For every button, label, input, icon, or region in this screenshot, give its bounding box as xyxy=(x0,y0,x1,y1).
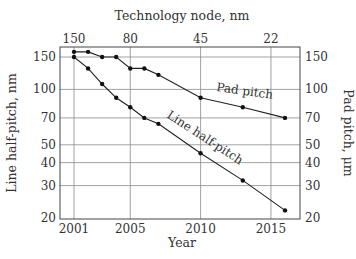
right-axis-title: Pad pitch, μm xyxy=(341,89,356,176)
top-axis-title: Technology node, nm xyxy=(115,8,250,23)
data-point xyxy=(241,178,245,182)
y-left-tick-label: 70 xyxy=(41,111,56,125)
y-left-tick-label: 30 xyxy=(41,179,56,193)
line-chart: 2001200520102015202030304040505070701001… xyxy=(0,0,356,259)
y-left-tick-label: 40 xyxy=(41,156,56,170)
y-left-tick-label: 150 xyxy=(33,50,56,64)
data-point xyxy=(86,50,90,54)
series-line-line-half-pitch xyxy=(74,57,285,210)
y-right-tick-label: 150 xyxy=(305,50,328,64)
y-left-tick-label: 50 xyxy=(41,138,56,152)
data-point xyxy=(156,122,160,126)
data-point xyxy=(128,105,132,109)
y-right-tick-label: 40 xyxy=(305,156,320,170)
top-tick-label: 45 xyxy=(193,32,208,46)
data-point xyxy=(283,208,287,212)
data-point xyxy=(86,66,90,70)
data-point xyxy=(142,116,146,120)
y-right-tick-label: 50 xyxy=(305,138,320,152)
y-right-tick-label: 30 xyxy=(305,179,320,193)
x-tick-label: 2001 xyxy=(59,222,90,236)
data-series xyxy=(72,50,287,213)
pad-pitch-annotation: Pad pitch xyxy=(216,80,275,102)
top-tick-label: 150 xyxy=(63,32,86,46)
data-point xyxy=(241,105,245,109)
top-tick-label: 80 xyxy=(123,32,138,46)
x-axis-title: Year xyxy=(167,235,196,250)
x-tick-label: 2015 xyxy=(256,222,287,236)
y-right-tick-label: 20 xyxy=(305,211,320,225)
data-point xyxy=(156,73,160,77)
data-point xyxy=(114,96,118,100)
data-point xyxy=(72,55,76,59)
y-right-tick-label: 70 xyxy=(305,111,320,125)
data-point xyxy=(198,151,202,155)
data-point xyxy=(72,50,76,54)
data-point xyxy=(128,66,132,70)
data-point xyxy=(198,96,202,100)
y-left-tick-label: 100 xyxy=(33,82,56,96)
x-tick-label: 2005 xyxy=(115,222,146,236)
data-point xyxy=(283,116,287,120)
axis-ticks: 2001200520102015202030304040505070701001… xyxy=(33,32,328,236)
grid-lines xyxy=(60,47,300,219)
data-point xyxy=(142,66,146,70)
left-axis-title: Line half-pitch, nm xyxy=(4,73,19,193)
x-tick-label: 2010 xyxy=(185,222,216,236)
data-point xyxy=(114,55,118,59)
data-point xyxy=(100,55,104,59)
plot-frame xyxy=(60,47,300,219)
y-right-tick-label: 100 xyxy=(305,82,328,96)
top-tick-label: 22 xyxy=(263,32,278,46)
y-left-tick-label: 20 xyxy=(41,211,56,225)
line-half-pitch-annotation: Line half-pitch xyxy=(164,108,246,168)
data-point xyxy=(100,82,104,86)
